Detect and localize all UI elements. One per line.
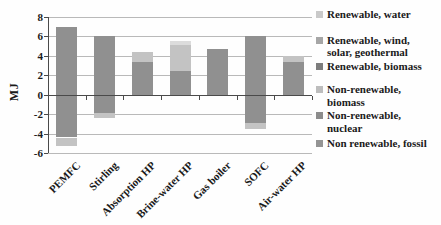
x-axis-tick — [199, 96, 200, 100]
bar-segment-air-water-hp-0 — [283, 62, 304, 95]
legend-swatch — [316, 140, 323, 147]
category-label: Stirling — [87, 159, 121, 193]
gridline — [48, 17, 312, 18]
y-tick-label: -6 — [16, 147, 43, 159]
x-axis-tick — [237, 96, 238, 100]
x-axis-tick — [86, 96, 87, 100]
legend-item: Renewable, wind, solar, geothermal — [316, 34, 440, 59]
bar-segment-stirling-2 — [94, 113, 115, 118]
x-axis-line — [48, 95, 312, 96]
legend-swatch — [316, 86, 323, 93]
legend: Renewable, waterRenewable, wind, solar, … — [316, 8, 440, 150]
bar-segment-stirling-1 — [94, 95, 115, 114]
category-label: SOFC — [242, 159, 271, 188]
legend-label: Renewable, water — [327, 8, 433, 21]
bar-segment-sofc-0 — [245, 36, 266, 95]
legend-item: Non-renewable, nuclear — [316, 109, 440, 134]
gridline — [48, 36, 312, 37]
bar-segment-pemfc-2 — [56, 138, 77, 147]
legend-item: Renewable, water — [316, 8, 440, 21]
y-tick-label: 6 — [16, 30, 43, 42]
legend-swatch — [316, 37, 323, 44]
gridline — [48, 114, 312, 115]
bar-segment-pemfc-1 — [56, 95, 77, 138]
bar-segment-brine-water-hp-1 — [170, 45, 191, 71]
y-tick-label: -4 — [16, 128, 43, 140]
x-axis-tick — [123, 96, 124, 100]
x-axis-tick — [274, 96, 275, 100]
legend-label: Non renewable, fossil — [327, 137, 433, 150]
legend-label: Renewable, wind, solar, geothermal — [327, 34, 433, 59]
bar-segment-pemfc-0 — [56, 27, 77, 95]
y-tick-label: -2 — [16, 108, 43, 120]
bar-segment-sofc-2 — [245, 123, 266, 129]
legend-label: Non-renewable, biomass — [327, 83, 433, 108]
bar-segment-brine-water-hp-2 — [170, 41, 191, 45]
bar-segment-air-water-hp-1 — [283, 56, 304, 62]
bar-segment-sofc-1 — [245, 95, 266, 123]
legend-swatch — [316, 11, 323, 18]
bar-segment-absorption-hp-1 — [132, 52, 153, 62]
bar-segment-stirling-0 — [94, 36, 115, 94]
y-tick-label: 2 — [16, 69, 43, 81]
y-tick-label: 8 — [16, 11, 43, 23]
legend-label: Non-renewable, nuclear — [327, 109, 433, 134]
legend-swatch — [316, 112, 323, 119]
bar-segment-absorption-hp-0 — [132, 62, 153, 95]
y-tick-label: 0 — [16, 89, 43, 101]
gridline — [48, 153, 312, 154]
gridline — [48, 134, 312, 135]
y-tick-label: 4 — [16, 50, 43, 62]
y-axis-line — [48, 17, 49, 153]
category-label: PEMFC — [46, 159, 82, 195]
x-axis-tick — [48, 96, 49, 100]
legend-item: Renewable, biomass — [316, 60, 440, 73]
bar-segment-brine-water-hp-0 — [170, 71, 191, 94]
legend-item: Non-renewable, biomass — [316, 83, 440, 108]
x-axis-tick — [161, 96, 162, 100]
legend-item: Non renewable, fossil — [316, 137, 440, 150]
y-axis-tick — [44, 153, 48, 154]
chart-figure: MJ Renewable, waterRenewable, wind, sola… — [0, 0, 441, 225]
legend-label: Renewable, biomass — [327, 60, 433, 73]
category-label: Gas boiler — [190, 159, 233, 202]
x-axis-tick — [312, 96, 313, 100]
bar-segment-gas-boiler-0 — [207, 49, 228, 95]
legend-swatch — [316, 63, 323, 70]
